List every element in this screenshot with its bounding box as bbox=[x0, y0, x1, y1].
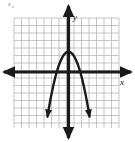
y-axis-label: y bbox=[72, 12, 77, 22]
scan-speck bbox=[12, 6, 14, 8]
parabola-figure: y x bbox=[0, 0, 135, 142]
x-axis-label: x bbox=[119, 77, 124, 87]
scan-speck bbox=[8, 3, 11, 6]
graph-canvas: y x bbox=[0, 0, 135, 142]
